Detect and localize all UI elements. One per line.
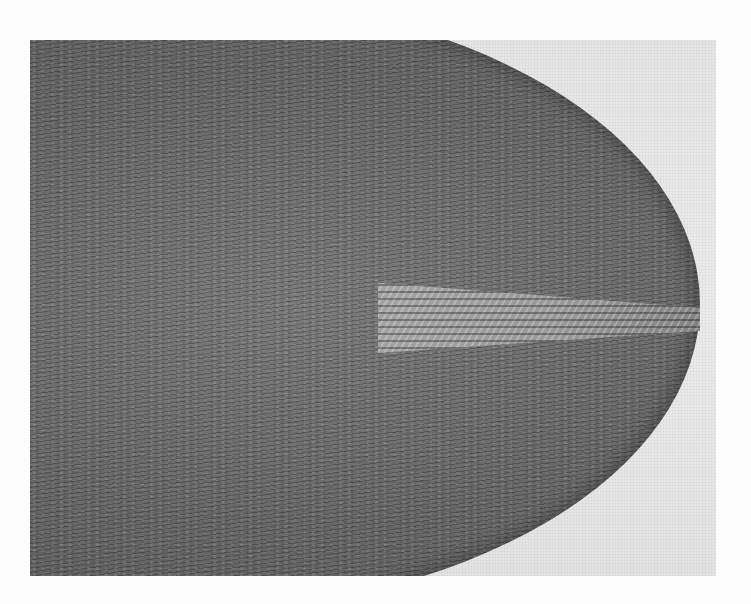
knitted-fabric-photo bbox=[30, 40, 716, 576]
page bbox=[0, 0, 751, 604]
